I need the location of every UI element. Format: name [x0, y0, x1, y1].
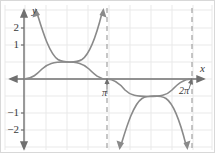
x-axis-left-arrow — [10, 76, 17, 82]
y-axis-label: y — [32, 5, 37, 16]
y-tick-label-minus-1: −1 — [2, 107, 19, 118]
y-tick-label-1: 1 — [6, 39, 19, 50]
x-axis-right-arrow — [197, 76, 204, 82]
x-axis-label: x — [200, 63, 205, 74]
cosecant-lower-path — [121, 96, 186, 145]
csc-lower-left-arrow — [117, 141, 125, 151]
cosecant-lower-branch — [117, 96, 191, 150]
x-tick-label-two-pi: 2π — [179, 86, 189, 96]
y-tick-label-minus-2: −2 — [2, 124, 19, 135]
y-axis-up-arrow — [21, 10, 27, 17]
y-axis-down-arrow — [21, 142, 27, 149]
y-tick-label-2: 2 — [6, 22, 19, 33]
cosecant-upper-path — [37, 13, 102, 62]
x-tick-label-pi: π — [102, 88, 107, 98]
cosecant-upper-branch — [33, 8, 107, 62]
trig-graph-figure: y x 2 1 −1 −2 π 2π — [0, 0, 215, 153]
graph-canvas — [1, 1, 215, 153]
